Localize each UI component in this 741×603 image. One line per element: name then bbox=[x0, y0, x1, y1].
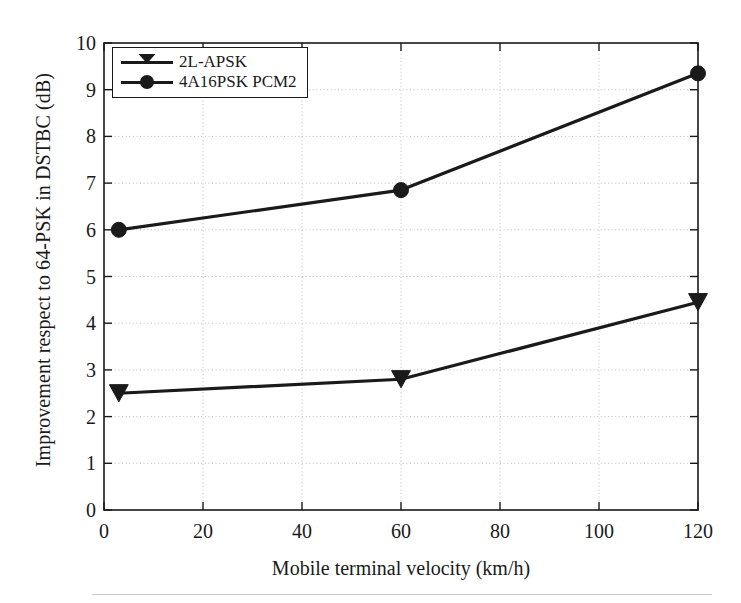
circle-glyph bbox=[140, 75, 154, 89]
triangle-down-marker bbox=[136, 51, 158, 73]
data-point-triangle-down-marker bbox=[689, 294, 708, 311]
legend: 2L-APSK4A16PSK PCM2 bbox=[112, 47, 308, 98]
circle-marker bbox=[136, 71, 158, 93]
x-axis-tick-label: 40 bbox=[272, 521, 332, 541]
data-point-circle-marker bbox=[111, 222, 126, 237]
legend-marker-sample bbox=[121, 72, 173, 92]
legend-label: 4A16PSK PCM2 bbox=[179, 72, 297, 92]
data-point-circle-marker bbox=[394, 183, 409, 198]
series-1 bbox=[109, 294, 707, 402]
x-axis-title: Mobile terminal velocity (km/h) bbox=[104, 556, 698, 580]
x-axis-tick-label: 120 bbox=[668, 521, 728, 541]
legend-item: 2L-APSK bbox=[121, 52, 297, 72]
page-rule bbox=[92, 594, 712, 595]
triangle-down-glyph bbox=[139, 54, 156, 64]
x-axis-tick-label: 20 bbox=[173, 521, 233, 541]
x-axis-tick-label: 0 bbox=[74, 521, 134, 541]
chart-figure: Improvement respect to 64-PSK in DSTBC (… bbox=[0, 0, 741, 603]
grid-lines bbox=[104, 43, 698, 510]
legend-label: 2L-APSK bbox=[179, 52, 247, 72]
data-point-circle-marker bbox=[691, 66, 706, 81]
legend-marker-sample bbox=[121, 52, 173, 72]
x-axis-tick-label: 100 bbox=[569, 521, 629, 541]
legend-item: 4A16PSK PCM2 bbox=[121, 72, 297, 92]
x-axis-tick-label: 80 bbox=[470, 521, 530, 541]
series-line bbox=[119, 302, 698, 393]
x-axis-tick-labels: 020406080100120 bbox=[0, 521, 741, 547]
x-axis-tick-label: 60 bbox=[371, 521, 431, 541]
